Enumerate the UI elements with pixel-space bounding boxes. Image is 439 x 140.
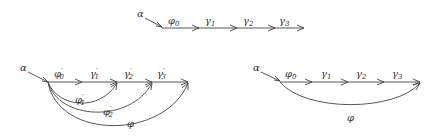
label-gamma2: γ2 bbox=[243, 15, 254, 28]
label-phi: φ bbox=[347, 112, 354, 123]
label-gamma3: γ3 bbox=[279, 15, 290, 28]
label-gamma1: γ1 bbox=[321, 68, 331, 81]
label-phi0: φ0 bbox=[168, 15, 180, 28]
label-gamma2: γ2 bbox=[356, 68, 367, 81]
diagram-bottom-right: α φ0 γ1 γ2 γ3 φ bbox=[253, 62, 420, 123]
label-gamma1-prime: γ′1 bbox=[90, 67, 99, 81]
source-arrow bbox=[28, 72, 48, 82]
label-gamma3: γ3 bbox=[392, 68, 403, 81]
diagram-bottom-left: α φ′0 γ′1 γ′2 γ′3 φ′1 φ′2 φ bbox=[20, 62, 188, 129]
source-alpha: α bbox=[253, 62, 260, 73]
label-phi0: φ0 bbox=[285, 68, 297, 81]
label-phi0-prime: φ′0 bbox=[54, 67, 65, 81]
label-gamma2-prime: γ′2 bbox=[124, 67, 134, 81]
label-phi2-prime: φ′2 bbox=[103, 105, 114, 119]
label-phi: φ bbox=[127, 118, 134, 129]
curve-phi bbox=[280, 82, 420, 105]
label-gamma3-prime: γ′3 bbox=[157, 67, 167, 81]
commutative-diagrams: α φ0 γ1 γ2 γ3 α φ′0 γ′1 γ′2 γ′3 bbox=[0, 0, 439, 140]
source-alpha: α bbox=[137, 8, 144, 19]
curve-phi bbox=[48, 82, 188, 126]
source-arrow bbox=[261, 72, 280, 81]
source-alpha: α bbox=[20, 62, 27, 73]
diagram-top: α φ0 γ1 γ2 γ3 bbox=[137, 8, 304, 31]
curve-phi2-prime bbox=[48, 82, 152, 112]
source-arrow bbox=[145, 18, 162, 27]
label-phi1-prime: φ′1 bbox=[75, 93, 85, 107]
label-gamma1: γ1 bbox=[205, 15, 215, 28]
